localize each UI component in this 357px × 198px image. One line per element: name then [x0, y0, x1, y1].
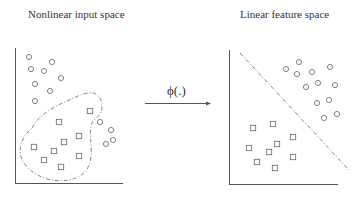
square-point [270, 121, 275, 126]
circle-point [314, 100, 319, 105]
circle-point [47, 88, 52, 93]
square-point [250, 125, 255, 130]
square-point [61, 139, 66, 144]
square-point [76, 153, 81, 158]
nonlinear-decision-boundary [20, 93, 102, 181]
square-point [41, 157, 46, 162]
square-point [246, 145, 251, 150]
circle-point [283, 66, 288, 71]
square-point [56, 119, 61, 124]
left-square-points [31, 108, 92, 169]
circle-point [41, 68, 46, 73]
circle-point [334, 111, 339, 116]
circle-point [110, 137, 115, 142]
square-point [290, 134, 295, 139]
circle-point [26, 54, 31, 59]
square-point [254, 159, 259, 164]
circle-point [303, 84, 308, 89]
square-point [31, 144, 36, 149]
square-point [76, 133, 81, 138]
circle-point [103, 141, 108, 146]
circle-point [294, 71, 299, 76]
circle-point [327, 64, 332, 69]
circle-point [108, 127, 113, 132]
square-point [290, 154, 295, 159]
circle-point [315, 80, 320, 85]
square-point [58, 164, 63, 169]
circle-point [97, 119, 102, 124]
circle-point [58, 75, 63, 80]
square-point [266, 149, 271, 154]
diagram-canvas [0, 0, 357, 198]
square-point [87, 108, 92, 113]
right-arrow-icon [145, 102, 211, 106]
circle-point [32, 98, 37, 103]
left-circle-points [26, 54, 115, 146]
right-square-points [246, 121, 295, 170]
square-point [51, 148, 56, 153]
square-point [274, 141, 279, 146]
square-point [272, 165, 277, 170]
circle-point [321, 115, 326, 120]
circle-point [309, 69, 314, 74]
circle-point [296, 59, 301, 64]
circle-point [28, 66, 33, 71]
circle-point [49, 59, 54, 64]
linear-decision-boundary [240, 53, 349, 170]
right-circle-points [283, 59, 339, 120]
circle-point [32, 81, 37, 86]
circle-point [326, 97, 331, 102]
left-axes [15, 48, 123, 184]
circle-point [332, 82, 337, 87]
